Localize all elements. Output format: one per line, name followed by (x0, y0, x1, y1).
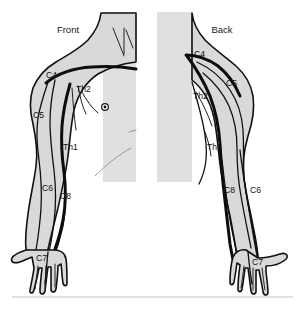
nipple-dot-icon (104, 106, 107, 109)
back-torso-panel (157, 12, 192, 182)
front-label-c4: C4 (46, 70, 57, 80)
front-view-group: Front C4 Th2 C5 Th1 C6 C8 C7 (11, 12, 136, 294)
back-label-c4: C4 (194, 49, 205, 59)
back-label-c8: C8 (224, 185, 235, 195)
back-view-group: Back C4 C5 Th2 Th1 C8 C6 C7 (157, 12, 287, 295)
back-label-c5: C5 (226, 78, 237, 88)
front-label-c6: C6 (42, 183, 53, 193)
back-label-th1: Th1 (207, 142, 222, 152)
front-label-th1: Th1 (63, 142, 78, 152)
front-label-th2: Th2 (76, 84, 91, 94)
back-label-c7: C7 (252, 257, 263, 267)
dermatome-svg-canvas: Front C4 Th2 C5 Th1 C6 C8 C7 (0, 0, 305, 310)
front-label-c5: C5 (33, 110, 44, 120)
back-view-title: Back (211, 24, 232, 35)
back-label-th2: Th2 (193, 91, 208, 101)
front-view-title: Front (57, 24, 80, 35)
nipple-marker (102, 104, 109, 111)
back-label-c6: C6 (250, 185, 261, 195)
dermatome-figure: Front C4 Th2 C5 Th1 C6 C8 C7 (0, 0, 305, 310)
front-label-c7: C7 (36, 253, 47, 263)
front-label-c8: C8 (60, 191, 71, 201)
